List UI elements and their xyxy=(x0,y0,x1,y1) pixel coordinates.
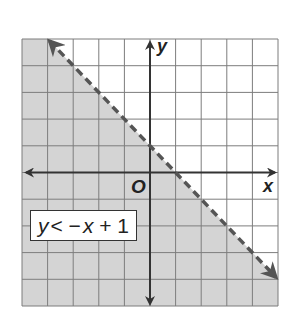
origin-label: O xyxy=(131,176,146,198)
inequality-y: y xyxy=(38,214,49,238)
inequality-label: y < − x + 1 xyxy=(30,210,137,241)
x-axis-label: x xyxy=(263,176,273,197)
inequality-x: x xyxy=(83,214,94,238)
y-axis-label: y xyxy=(157,36,167,57)
inequality-tail: + 1 xyxy=(93,214,129,238)
inequality-operator: < − xyxy=(51,214,81,238)
inequality-graph xyxy=(0,0,286,331)
